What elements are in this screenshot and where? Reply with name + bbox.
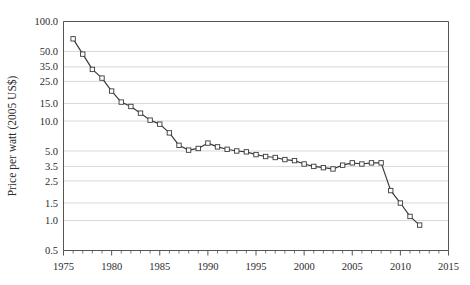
y-tick-label-0.5: 0.5	[45, 245, 58, 256]
data-point-2001	[312, 164, 316, 168]
y-tick-label-2.5: 2.5	[45, 176, 58, 187]
data-point-1988	[186, 148, 190, 152]
x-tick-label-1985: 1985	[149, 261, 170, 272]
data-point-1978	[90, 67, 94, 71]
data-point-2009	[389, 188, 393, 192]
data-point-1981	[119, 100, 123, 104]
data-point-1994	[244, 150, 248, 154]
data-point-1979	[100, 76, 104, 80]
data-point-1985	[158, 122, 162, 126]
data-point-2000	[302, 162, 306, 166]
data-point-2010	[398, 201, 402, 205]
x-tick-label-1975: 1975	[53, 261, 74, 272]
data-point-1997	[273, 155, 277, 159]
data-point-markers	[71, 37, 422, 228]
y-tick-label-10.0: 10.0	[40, 116, 58, 127]
y-tick-label-25.0: 25.0	[40, 76, 58, 87]
data-point-2003	[331, 167, 335, 171]
data-point-2006	[360, 162, 364, 166]
y-tick-label-5.0: 5.0	[45, 146, 58, 157]
plot-frame	[64, 22, 449, 251]
data-point-1986	[167, 131, 171, 135]
y-tick-label-1.5: 1.5	[45, 198, 58, 209]
y-tick-label-3.5: 3.5	[45, 161, 58, 172]
data-point-2002	[321, 165, 325, 169]
y-axis-title: Price per watt (2005 US$)	[6, 75, 19, 196]
y-axis-tick-labels: 100.050.035.025.015.010.05.03.52.51.51.0…	[34, 16, 58, 256]
data-point-1992	[225, 147, 229, 151]
x-tick-label-1995: 1995	[246, 261, 267, 272]
chart-container: 100.050.035.025.015.010.05.03.52.51.51.0…	[0, 0, 470, 285]
data-point-1995	[254, 152, 258, 156]
data-point-2011	[408, 214, 412, 218]
data-point-1976	[71, 37, 75, 41]
data-point-2004	[340, 163, 344, 167]
x-tick-label-2005: 2005	[342, 261, 363, 272]
y-tick-label-50.0: 50.0	[40, 46, 58, 57]
x-tick-label-1990: 1990	[197, 261, 218, 272]
data-point-1998	[283, 157, 287, 161]
x-tick-label-1980: 1980	[101, 261, 122, 272]
data-point-1980	[109, 89, 113, 93]
data-point-1983	[138, 111, 142, 115]
data-point-1977	[81, 52, 85, 56]
data-point-1996	[263, 154, 267, 158]
x-tick-label-2000: 2000	[294, 261, 315, 272]
data-point-1999	[292, 158, 296, 162]
y-tick-label-100.0: 100.0	[34, 16, 58, 27]
data-point-1984	[148, 118, 152, 122]
data-point-1989	[196, 146, 200, 150]
data-point-1987	[177, 143, 181, 147]
y-tick-label-1.0: 1.0	[45, 215, 58, 226]
data-point-2012	[417, 223, 421, 227]
data-point-2007	[369, 161, 373, 165]
y-tick-label-35.0: 35.0	[40, 61, 58, 72]
price-per-watt-line-chart: 100.050.035.025.015.010.05.03.52.51.51.0…	[0, 0, 470, 285]
data-point-1990	[206, 141, 210, 145]
y-tick-label-15.0: 15.0	[40, 98, 58, 109]
data-point-1993	[235, 149, 239, 153]
x-tick-label-2010: 2010	[390, 261, 411, 272]
x-tick-label-2015: 2015	[438, 261, 459, 272]
data-point-2008	[379, 161, 383, 165]
x-axis-ticks: 197519801985199019952000200520102015	[53, 251, 459, 272]
data-point-1991	[215, 145, 219, 149]
data-point-2005	[350, 161, 354, 165]
data-point-1982	[129, 104, 133, 108]
